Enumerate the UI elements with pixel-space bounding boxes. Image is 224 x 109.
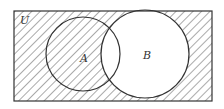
- universe-label: U: [20, 14, 30, 27]
- set-a-label: A: [79, 52, 88, 65]
- venn-diagram: U A B: [0, 0, 224, 109]
- set-b-label: B: [142, 49, 151, 62]
